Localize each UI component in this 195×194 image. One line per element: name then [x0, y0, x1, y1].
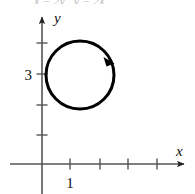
y-tick-label-3: 3: [25, 67, 33, 83]
y-axis-label: y: [52, 10, 61, 26]
orbit-circle: [46, 41, 114, 109]
figure-canvas: x = 2y , y = 2x 1 x: [0, 0, 195, 194]
x-tick-label-1: 1: [66, 175, 74, 191]
x-axis: 1 x: [10, 143, 184, 191]
orbit-curve-group: [46, 41, 115, 109]
coordinate-plot-svg: 1 x 3 y: [0, 0, 195, 194]
x-axis-label: x: [175, 143, 183, 159]
y-axis: 3 y: [25, 10, 62, 194]
